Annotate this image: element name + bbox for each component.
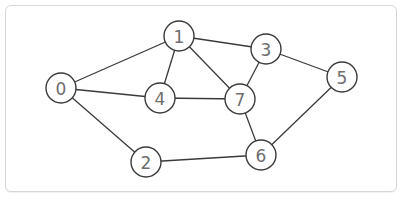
node-label: 3 xyxy=(261,40,272,60)
edge-2-6 xyxy=(146,155,261,162)
node-4: 4 xyxy=(145,83,175,113)
node-label: 1 xyxy=(174,27,185,47)
edge-0-1 xyxy=(61,36,179,88)
node-3: 3 xyxy=(251,34,281,64)
edges-layer xyxy=(61,36,342,162)
edge-0-2 xyxy=(61,88,146,162)
node-7: 7 xyxy=(225,84,255,114)
node-2: 2 xyxy=(131,147,161,177)
edge-5-6 xyxy=(261,77,342,155)
node-5: 5 xyxy=(327,62,357,92)
node-label: 4 xyxy=(155,89,166,109)
node-6: 6 xyxy=(246,140,276,170)
node-1: 1 xyxy=(164,21,194,51)
graph-canvas: 01234567 xyxy=(0,0,404,200)
node-label: 6 xyxy=(256,146,267,166)
node-label: 0 xyxy=(56,79,67,99)
node-label: 7 xyxy=(235,90,246,110)
node-label: 2 xyxy=(141,153,152,173)
node-label: 5 xyxy=(337,68,348,88)
node-0: 0 xyxy=(46,73,76,103)
